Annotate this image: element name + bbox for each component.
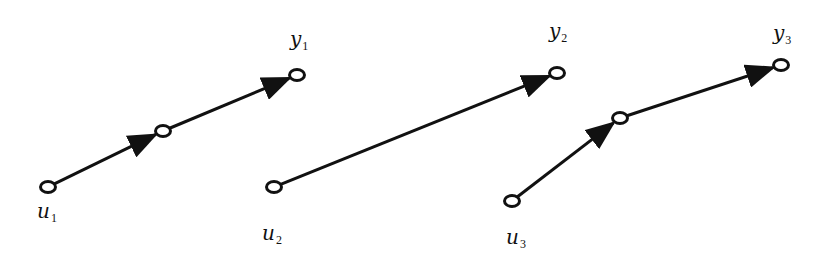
edge-u1-to-m1: [54, 135, 156, 184]
node-y2: [550, 68, 565, 79]
node-u1: [41, 182, 56, 193]
node-u3: [505, 196, 520, 207]
edge-m1-to-y1: [169, 78, 289, 128]
nodes: [41, 60, 789, 207]
edge-u3-to-m3: [517, 123, 613, 197]
diagram-canvas: u1y1u2y2u3y3: [0, 0, 829, 265]
label-y1: y1: [289, 27, 308, 53]
node-m1: [156, 126, 171, 137]
label-u3: u3: [506, 225, 526, 251]
node-m3: [613, 113, 628, 124]
label-u2: u2: [262, 221, 282, 247]
edge-u2-to-y2: [280, 76, 549, 184]
node-y1: [290, 70, 305, 81]
label-y3: y3: [772, 21, 791, 47]
node-u2: [267, 182, 282, 193]
labels: u1y1u2y2u3y3: [37, 19, 791, 251]
edge-m3-to-y3: [626, 68, 773, 116]
node-y3: [774, 60, 789, 71]
label-u1: u1: [37, 199, 57, 225]
label-y2: y2: [548, 19, 567, 45]
